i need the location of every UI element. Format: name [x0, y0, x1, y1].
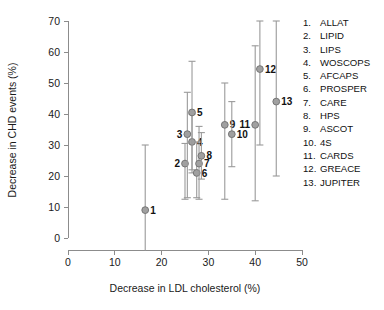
legend-number: 9.	[303, 122, 320, 135]
legend-number: 4.	[303, 56, 320, 69]
legend-name: HPS	[320, 109, 384, 122]
scatter-chart-figure: 010203040506070 01020304050 123456789101…	[0, 0, 384, 310]
legend-number: 11.	[303, 149, 320, 162]
legend-number: 3.	[303, 43, 320, 56]
legend-item-ascot: 9.ASCOT	[303, 122, 384, 135]
legend-name: ASCOT	[320, 122, 384, 135]
legend-item-lipid: 2.LIPID	[303, 29, 384, 42]
legend-name: AFCAPS	[320, 69, 384, 82]
point-label-11: 11	[240, 119, 251, 130]
legend: 1.ALLAT2.LIPID3.LIPS4.WOSCOPS5.AFCAPS6.P…	[303, 16, 384, 189]
marker-lips	[184, 131, 191, 138]
legend-item-care: 7.CARE	[303, 96, 384, 109]
legend-name: 4S	[320, 136, 384, 149]
legend-number: 8.	[303, 109, 320, 122]
legend-name: ALLAT	[320, 16, 384, 29]
legend-item-prosper: 6.PROSPER	[303, 82, 384, 95]
legend-name: LIPID	[320, 29, 384, 42]
marker-ascot	[221, 121, 228, 128]
legend-name: CARE	[320, 96, 384, 109]
point-label-5: 5	[197, 107, 203, 118]
legend-item-greace: 12.GREACE	[303, 162, 384, 175]
data-point-11: 11	[240, 46, 259, 201]
marker-greace	[256, 66, 263, 73]
legend-number: 10.	[303, 136, 320, 149]
point-label-8: 8	[206, 150, 212, 161]
data-point-3: 3	[177, 92, 191, 197]
legend-number: 12.	[303, 162, 320, 175]
marker-4s	[228, 131, 235, 138]
x-tick-label-40: 40	[249, 256, 261, 268]
legend-number: 1.	[303, 16, 320, 29]
legend-number: 6.	[303, 82, 320, 95]
legend-item-lips: 3.LIPS	[303, 43, 384, 56]
point-label-9: 9	[230, 119, 236, 130]
legend-item-jupiter: 13.JUPITER	[303, 176, 384, 189]
data-point-2: 2	[174, 143, 188, 199]
legend-number: 13.	[303, 176, 320, 189]
legend-number: 5.	[303, 69, 320, 82]
x-tick-label-30: 30	[203, 256, 215, 268]
x-tick-label-10: 10	[109, 256, 121, 268]
legend-item-woscops: 4.WOSCOPS	[303, 56, 384, 69]
legend-name: LIPS	[320, 43, 384, 56]
legend-name: CARDS	[320, 149, 384, 162]
marker-jupiter	[273, 98, 280, 105]
x-axis-title: Decrease in LDL cholesterol (%)	[110, 282, 261, 294]
y-axis: 010203040506070	[48, 15, 68, 244]
legend-item-afcaps: 5.AFCAPS	[303, 69, 384, 82]
legend-item-hps: 8.HPS	[303, 109, 384, 122]
y-tick-label-10: 10	[48, 201, 60, 213]
legend-number: 2.	[303, 29, 320, 42]
y-tick-label-60: 60	[48, 46, 60, 58]
marker-cards	[252, 121, 259, 128]
y-tick-label-70: 70	[48, 15, 60, 27]
y-tick-label-30: 30	[48, 139, 60, 151]
y-axis-title: Decrease in CHD events (%)	[6, 63, 18, 198]
legend-name: GREACE	[320, 162, 384, 175]
data-point-12: 12	[256, 21, 276, 145]
data-point-13: 13	[273, 21, 293, 176]
data-point-10: 10	[228, 102, 248, 167]
data-point-9: 9	[221, 83, 236, 199]
data-point-1: 1	[142, 145, 157, 250]
point-label-13: 13	[281, 96, 293, 107]
legend-name: PROSPER	[320, 82, 384, 95]
y-tick-label-20: 20	[48, 170, 60, 182]
x-tick-label-50: 50	[296, 256, 308, 268]
point-label-1: 1	[150, 205, 156, 216]
legend-name: JUPITER	[320, 176, 384, 189]
marker-hps	[198, 152, 205, 159]
y-tick-label-40: 40	[48, 108, 60, 120]
y-tick-label-50: 50	[48, 77, 60, 89]
x-axis: 01020304050	[65, 250, 308, 268]
legend-item-4s: 10.4S	[303, 136, 384, 149]
point-label-3: 3	[177, 129, 183, 140]
x-tick-label-0: 0	[65, 256, 71, 268]
legend-item-allat: 1.ALLAT	[303, 16, 384, 29]
legend-name: WOSCOPS	[320, 56, 384, 69]
legend-item-cards: 11.CARDS	[303, 149, 384, 162]
x-tick-label-20: 20	[156, 256, 168, 268]
data-series: 12345678910111213	[142, 21, 293, 250]
point-label-12: 12	[265, 64, 277, 75]
legend-number: 7.	[303, 96, 320, 109]
y-tick-label-0: 0	[54, 232, 60, 244]
marker-afcaps	[189, 109, 196, 116]
point-label-2: 2	[174, 158, 180, 169]
marker-allat	[142, 207, 149, 214]
